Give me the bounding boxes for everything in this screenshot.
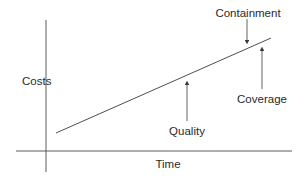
- containment-label: Containment: [215, 7, 281, 19]
- x-axis-label: Time: [155, 158, 180, 170]
- cost-time-diagram: Costs Time Containment Coverage Quality: [0, 0, 303, 182]
- quality-label: Quality: [169, 125, 205, 137]
- y-axis-label: Costs: [22, 75, 52, 87]
- coverage-label: Coverage: [237, 93, 287, 105]
- cost-trend-line: [56, 38, 271, 133]
